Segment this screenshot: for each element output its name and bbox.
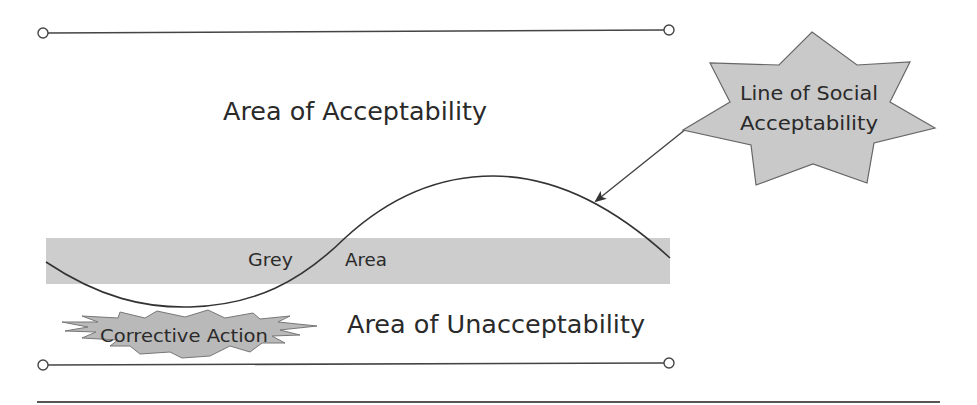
- line-of-social-acceptability-starburst: Line of Social Acceptability: [683, 32, 935, 185]
- corrective-action-label: Corrective Action: [100, 325, 268, 346]
- upper-boundary-line: [38, 25, 674, 38]
- social-line-label-2: Acceptability: [740, 111, 878, 135]
- social-acceptability-diagram: Area of Acceptability Grey Area Line of …: [0, 0, 977, 405]
- area-of-acceptability-label: Area of Acceptability: [223, 98, 487, 126]
- grey-area-label-right: Area: [345, 249, 387, 270]
- lower-boundary-line: [38, 358, 674, 370]
- lower-left-endpoint-icon: [38, 360, 48, 370]
- social-line-label-1: Line of Social: [740, 81, 878, 105]
- corrective-action-burst: Corrective Action: [62, 310, 317, 358]
- callout-arrow: [596, 129, 686, 201]
- grey-area-label-left: Grey: [248, 249, 293, 270]
- starburst-shape-icon: [683, 32, 935, 185]
- area-of-unacceptability-label: Area of Unacceptability: [347, 311, 645, 339]
- lower-right-endpoint-icon: [664, 358, 674, 368]
- upper-right-endpoint-icon: [664, 25, 674, 35]
- upper-left-endpoint-icon: [38, 28, 48, 38]
